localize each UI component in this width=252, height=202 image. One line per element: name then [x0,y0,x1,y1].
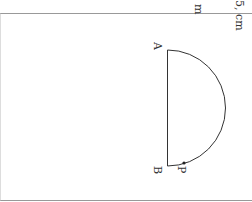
svg-text:P: P [175,166,188,174]
header-fragment-2: 5, cm [233,0,246,31]
header-fragment-1: m [192,4,205,15]
svg-text:5, cm: 5, cm [233,0,246,31]
label-p: P [175,166,188,174]
semicircle-arc [168,50,226,166]
point-p-dot [182,161,185,164]
svg-text:B: B [151,166,164,174]
svg-text:A: A [151,41,164,51]
label-a: A [151,41,164,51]
svg-text:m: m [192,4,205,15]
semicircle-diagram: m 5, cm A B P [0,0,252,202]
label-b: B [151,166,164,174]
